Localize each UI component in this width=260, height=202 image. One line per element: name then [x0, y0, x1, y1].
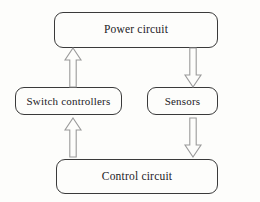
node-switch-controllers: Switch controllers: [15, 87, 122, 115]
node-power-circuit-label: Power circuit: [104, 24, 168, 36]
arrow-up-control-circuit-to-switch-controllers: [64, 117, 82, 158]
arrow-down-sensors-to-control-circuit: [184, 117, 202, 158]
node-sensors-label: Sensors: [165, 96, 201, 107]
block-diagram: Power circuit Switch controllers Sensors…: [0, 0, 260, 202]
node-sensors: Sensors: [147, 87, 218, 115]
arrow-down-power-circuit-to-sensors: [184, 47, 202, 88]
node-control-circuit: Control circuit: [56, 159, 218, 194]
node-switch-controllers-label: Switch controllers: [27, 96, 111, 107]
node-power-circuit: Power circuit: [54, 12, 218, 48]
node-control-circuit-label: Control circuit: [102, 171, 172, 183]
arrow-up-switch-controllers-to-power-circuit: [64, 47, 82, 88]
